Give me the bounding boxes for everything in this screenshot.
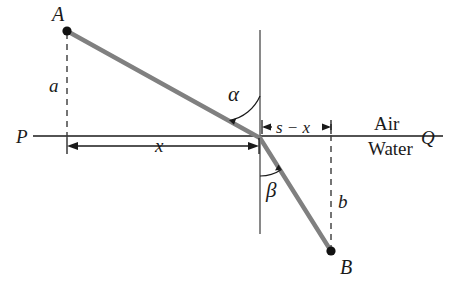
label-medium-water: Water	[368, 138, 414, 159]
x-dim-left-arrowhead	[67, 142, 78, 150]
label-angle-alpha: α	[228, 82, 240, 106]
x-dim-right-arrowhead	[248, 142, 259, 150]
diagram-canvas: A B P Q a b x s − x α β Air Water	[0, 0, 449, 292]
label-p-endpoint: P	[15, 126, 28, 147]
label-angle-beta: β	[265, 178, 277, 202]
point-a-dot	[62, 26, 71, 35]
label-medium-air: Air	[374, 113, 400, 134]
label-point-b: B	[340, 256, 352, 278]
sx-dim-right-arrowhead	[322, 124, 331, 131]
label-q-endpoint: Q	[421, 127, 435, 148]
label-depth-b: b	[338, 191, 348, 212]
label-distance-s-minus-x: s − x	[276, 118, 311, 137]
label-height-a: a	[49, 75, 59, 96]
sx-dim-left-arrowhead	[262, 124, 271, 131]
point-b-dot	[326, 246, 335, 255]
label-point-a: A	[50, 3, 65, 25]
refraction-diagram: A B P Q a b x s − x α β Air Water	[0, 0, 449, 292]
label-distance-x: x	[154, 135, 164, 156]
